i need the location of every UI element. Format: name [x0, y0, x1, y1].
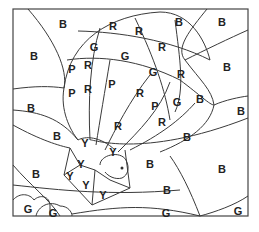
region-letter-b: B — [218, 164, 226, 175]
region-letter-p: P — [151, 101, 158, 112]
region-letter-b: B — [27, 103, 35, 114]
region-letter-y: Y — [82, 180, 89, 191]
region-letter-b: B — [175, 17, 183, 28]
region-letter-r: R — [158, 42, 166, 53]
region-letter-g: G — [121, 51, 130, 62]
region-letter-r: R — [136, 88, 144, 99]
region-letter-b: B — [237, 106, 245, 117]
region-letter-b: B — [196, 94, 204, 105]
region-letter-b: B — [32, 169, 40, 180]
region-letter-r: R — [158, 117, 166, 128]
region-letter-p: P — [68, 64, 75, 75]
region-letter-r: R — [177, 69, 185, 80]
region-letter-y: Y — [109, 147, 116, 158]
region-letter-b: B — [163, 185, 171, 196]
region-letter-g: G — [149, 67, 158, 78]
region-letter-b: B — [53, 131, 61, 142]
coloring-page: BRBBBGRGRPRBPRPGRRPGBBBRRBYYYBYYBBYBBGGG… — [0, 0, 259, 232]
region-letter-b: B — [146, 159, 154, 170]
region-letter-b: B — [30, 51, 38, 62]
region-letter-r: R — [84, 60, 92, 71]
region-letter-g: G — [24, 204, 33, 215]
region-letter-b: B — [218, 17, 226, 28]
region-letter-r: R — [114, 121, 122, 132]
region-letter-b: B — [59, 19, 67, 30]
region-letter-y: Y — [66, 171, 73, 182]
region-letter-g: G — [90, 42, 99, 53]
region-letter-g: G — [173, 97, 182, 108]
region-letter-r: R — [135, 26, 143, 37]
region-letter-y: Y — [77, 159, 84, 170]
region-letter-y: Y — [81, 138, 88, 149]
region-letter-p: P — [108, 79, 115, 90]
region-letter-g: G — [234, 206, 243, 217]
line-art — [0, 0, 259, 232]
region-letter-r: R — [109, 21, 117, 32]
region-letter-b: B — [183, 132, 191, 143]
region-letter-g: G — [49, 208, 58, 219]
region-letter-p: P — [68, 88, 75, 99]
region-letter-g: G — [162, 208, 171, 219]
region-letter-y: Y — [99, 190, 106, 201]
region-letter-b: B — [223, 62, 231, 73]
region-letter-r: R — [84, 84, 92, 95]
